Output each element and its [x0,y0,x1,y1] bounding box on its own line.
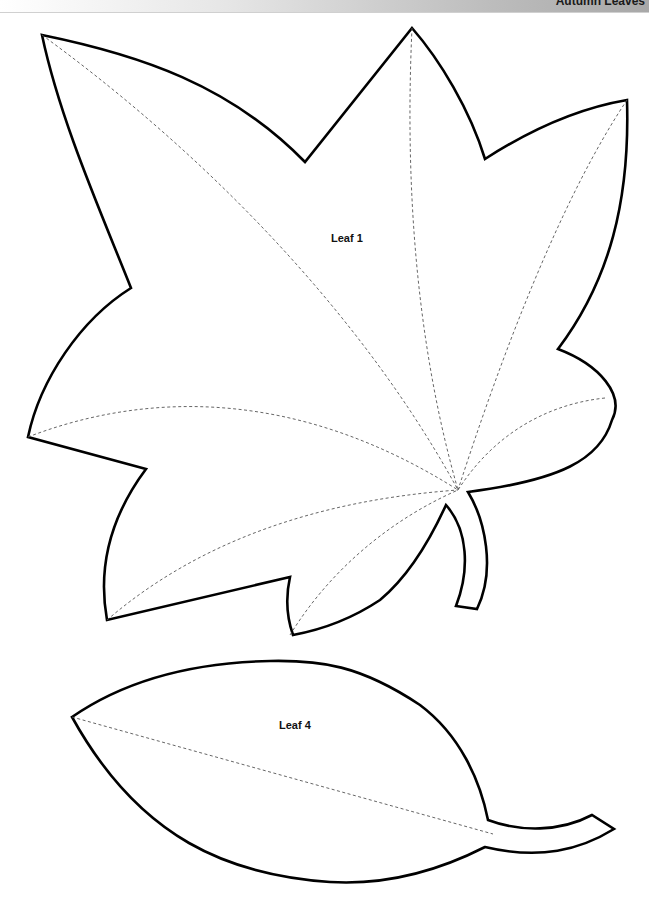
leaf-templates-drawing [0,0,649,911]
leaf-1-shape [28,28,627,635]
leaf-1-label: Leaf 1 [331,232,363,244]
leaf-4-outline [72,661,614,883]
leaf-4-label: Leaf 4 [279,719,311,731]
leaf-4-shape [72,661,614,883]
leaf-1-outline [28,28,627,635]
leaf-template-sheet: Leaf 1 Leaf 4 [0,0,649,911]
